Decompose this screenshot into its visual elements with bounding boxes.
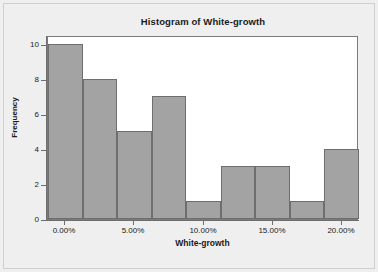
- x-axis-title: White-growth: [47, 238, 358, 248]
- y-axis-tick-label-wrapper: 10: [13, 41, 39, 49]
- histogram-bar: [324, 149, 359, 219]
- y-axis-tick-label-wrapper: 2: [13, 181, 39, 189]
- plot-area: [48, 37, 357, 219]
- y-axis-tick-label-wrapper: 6: [13, 111, 39, 119]
- y-axis-tick-label-wrapper: 4: [13, 146, 39, 154]
- histogram-bar: [290, 201, 325, 219]
- x-axis-tick: [341, 221, 342, 225]
- y-axis-tick-label-wrapper: 0: [13, 216, 39, 224]
- x-axis-tick-label: 20.00%: [316, 226, 366, 235]
- histogram-bar: [221, 166, 256, 219]
- plot-area-frame: [47, 36, 358, 220]
- x-axis-tick: [272, 221, 273, 225]
- x-axis-tick-label: 5.00%: [108, 226, 158, 235]
- y-axis-tick: [41, 220, 46, 221]
- x-axis-tick-label: 15.00%: [247, 226, 297, 235]
- histogram-bar: [186, 201, 221, 219]
- histogram-page: Histogram of White-growth Frequency 0246…: [0, 0, 378, 272]
- histogram-bar: [48, 44, 83, 219]
- y-axis-tick: [41, 185, 46, 186]
- y-axis-tick-label: 8: [19, 76, 39, 84]
- histogram-bar: [152, 96, 187, 219]
- y-axis-tick: [41, 150, 46, 151]
- histogram-bar: [255, 166, 290, 219]
- histogram-bar: [83, 79, 118, 219]
- y-axis-tick-label: 10: [19, 41, 39, 49]
- y-axis-tick: [41, 45, 46, 46]
- chart-title: Histogram of White-growth: [47, 16, 359, 27]
- y-axis-tick-label: 4: [19, 146, 39, 154]
- x-axis-tick: [203, 221, 204, 225]
- x-axis-tick: [64, 221, 65, 225]
- y-axis-tick-label: 6: [19, 111, 39, 119]
- histogram-bar: [117, 131, 152, 219]
- y-axis-tick-label: 2: [19, 181, 39, 189]
- y-axis-tick-label: 0: [19, 216, 39, 224]
- x-axis-tick: [133, 221, 134, 225]
- y-axis-tick: [41, 115, 46, 116]
- x-axis-tick-label: 10.00%: [178, 226, 228, 235]
- y-axis-tick: [41, 80, 46, 81]
- x-axis-tick-label: 0.00%: [39, 226, 89, 235]
- y-axis-tick-label-wrapper: 8: [13, 76, 39, 84]
